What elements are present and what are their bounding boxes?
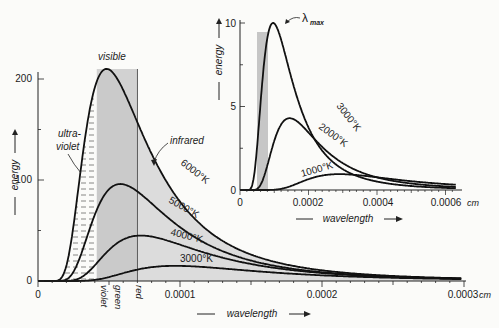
svg-text:energy: energy: [9, 159, 20, 191]
infrared-pointer: [154, 143, 168, 162]
chart-svg: 200 100 0 0 0.0001 0.0002 0.0003 cm ener…: [0, 0, 499, 328]
svg-text:wavelength: wavelength: [227, 308, 278, 319]
inset-y-tick-5: 5: [230, 101, 236, 112]
inset-x-tick-0.0002: 0.0002: [293, 197, 324, 208]
inset-x-tick-0.0004: 0.0004: [363, 197, 394, 208]
x-tick-0: 0: [35, 289, 41, 300]
label-6000k: 6000°K: [179, 157, 212, 186]
inset-y-title: energy: [213, 18, 224, 100]
green-label: green: [113, 285, 124, 309]
y-tick-0: 0: [26, 275, 32, 286]
ultraviolet-pointer: [68, 154, 81, 173]
inset-y-tick-10: 10: [225, 18, 237, 29]
x-tick-0.0003: 0.0003: [448, 289, 479, 300]
inset-chart: 10 5 0 0 0.0002 0.0004 0.0006 cm energy …: [213, 11, 480, 224]
main-y-title: energy: [9, 129, 20, 215]
ultraviolet-label-1: ultra-: [58, 128, 81, 139]
lambda-max-subscript: max: [310, 19, 325, 26]
ultraviolet-hatch: [38, 83, 97, 281]
visible-label: visible: [98, 51, 126, 62]
blackbody-figure: 200 100 0 0 0.0001 0.0002 0.0003 cm ener…: [0, 0, 499, 328]
x-unit-cm: cm: [479, 290, 492, 300]
inset-x-title: wavelength: [296, 213, 403, 224]
x-tick-0.0001: 0.0001: [165, 289, 196, 300]
inset-y-tick-0: 0: [230, 185, 236, 196]
svg-text:wavelength: wavelength: [323, 213, 374, 224]
main-x-title: wavelength: [197, 308, 311, 319]
violet-label: violet: [99, 285, 110, 308]
lambda-max-label: λ: [302, 11, 308, 25]
ultraviolet-label-2: violet: [56, 141, 81, 152]
y-tick-200: 200: [15, 73, 32, 84]
label-3000k: 3000°K: [180, 253, 213, 264]
inset-x-tick-0.0006: 0.0006: [431, 197, 462, 208]
x-tick-0.0002: 0.0002: [307, 289, 338, 300]
inset-x-tick-0: 0: [237, 197, 243, 208]
svg-text:energy: energy: [213, 44, 224, 76]
red-label: red: [134, 285, 145, 299]
infrared-label: infrared: [170, 135, 204, 146]
visible-band: [97, 69, 138, 281]
inset-x-unit-cm: cm: [467, 198, 480, 208]
